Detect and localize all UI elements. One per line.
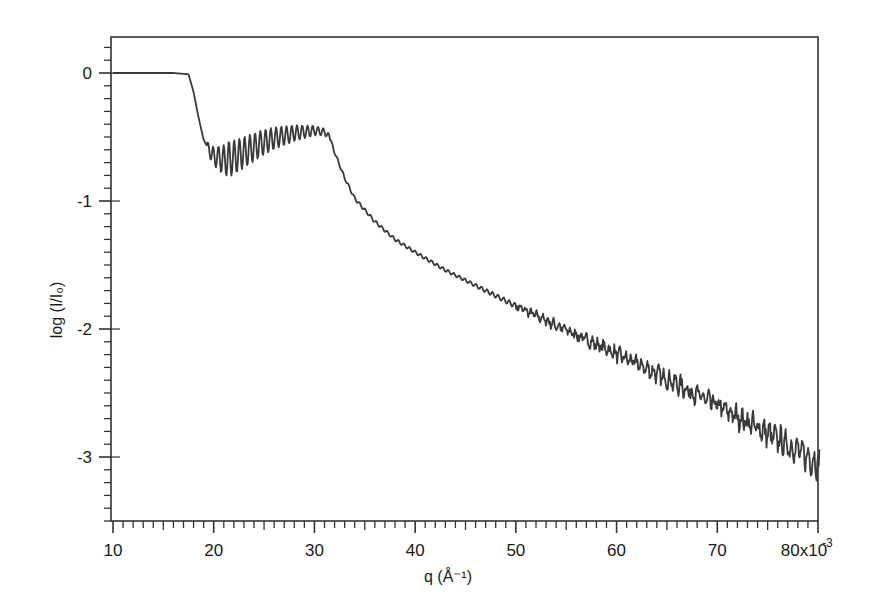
y-axis-title: log (I/I₀) xyxy=(48,282,65,338)
x-tick-label: 60 xyxy=(607,541,626,560)
y-tick-label: 0 xyxy=(83,64,92,83)
x-tick-label: 10 xyxy=(104,541,123,560)
reflectivity-chart: 0-1-2-3 1020304050607080x10 log (I/I₀) q… xyxy=(0,0,877,613)
y-tick-label: -3 xyxy=(77,448,92,467)
x-tick-label: 50 xyxy=(506,541,525,560)
y-tick-label: -1 xyxy=(77,192,92,211)
x-tick-label: 30 xyxy=(305,541,324,560)
y-tick-label: -2 xyxy=(77,320,92,339)
x-axis-title: q (Å⁻¹) xyxy=(424,567,472,585)
x-tick-label: 70 xyxy=(708,541,727,560)
x-tick-label: 40 xyxy=(406,541,425,560)
x-tick-label: 80x10 xyxy=(781,541,827,560)
x-axis-exponent: -3 xyxy=(822,536,833,550)
x-tick-label: 20 xyxy=(204,541,223,560)
